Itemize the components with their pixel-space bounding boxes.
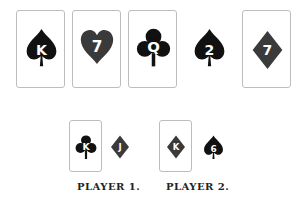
player-2-card-2-spade-icon[interactable]: 6 <box>203 134 224 161</box>
svg-text:K: K <box>173 142 180 152</box>
table-card-2[interactable]: 7 <box>72 10 121 88</box>
player-1-label: PLAYER 1. <box>77 181 140 192</box>
svg-text:6: 6 <box>210 144 216 154</box>
player-2-label: PLAYER 2. <box>166 181 229 192</box>
heart-icon: 7 <box>79 28 115 66</box>
svg-text:Q: Q <box>147 38 160 56</box>
club-icon: Q <box>136 27 171 69</box>
club-icon: K <box>75 134 97 161</box>
svg-text:7: 7 <box>263 42 273 58</box>
svg-text:K: K <box>36 42 48 58</box>
spade-icon: K <box>25 27 58 69</box>
table-card-4-spade-icon[interactable]: 2 <box>193 27 226 69</box>
svg-text:J: J <box>117 142 121 152</box>
svg-text:K: K <box>82 141 90 152</box>
svg-text:2: 2 <box>205 42 215 58</box>
table-card-5[interactable]: 7 <box>242 10 291 88</box>
table-card-1[interactable]: K <box>16 10 65 88</box>
player-1-card-1[interactable]: K <box>69 120 102 172</box>
player-1-card-2-diamond-icon[interactable]: J <box>110 134 130 160</box>
diamond-icon: 7 <box>251 29 284 71</box>
svg-text:7: 7 <box>92 38 103 56</box>
table-card-3[interactable]: Q <box>128 10 177 88</box>
player-2-card-1[interactable]: K <box>159 120 192 172</box>
diamond-icon: K <box>166 134 186 160</box>
